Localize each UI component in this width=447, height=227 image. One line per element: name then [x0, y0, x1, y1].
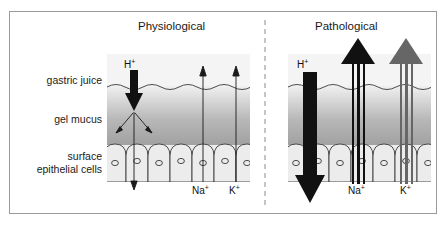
panel-physiological: [104, 54, 258, 190]
ion-label-k-plus-pathological: K+: [400, 184, 411, 196]
na-plus-arrow-shaft-right: [352, 52, 365, 184]
k-plus-arrow-shaft-right: [400, 52, 413, 184]
ion-label-h-plus-physiological: H+: [124, 58, 135, 70]
ion-label-h-plus-pathological: H+: [297, 58, 308, 70]
figure-root: Physiological Pathological gastric juice…: [0, 0, 447, 227]
ion-label-na-plus-physiological: Na+: [192, 184, 209, 196]
k-charge-right: +: [407, 184, 411, 191]
k-plus-arrowhead-right: [389, 38, 423, 64]
na-charge-left: +: [205, 184, 209, 191]
diagram-canvas: [0, 0, 447, 227]
na-plus-arrowhead-right: [341, 38, 375, 64]
k-symbol-left: K: [229, 185, 236, 196]
na-charge-right: +: [361, 184, 365, 191]
k-charge-left: +: [236, 184, 240, 191]
h-charge-left: +: [131, 58, 135, 65]
na-symbol-left: Na: [192, 185, 205, 196]
ion-label-na-plus-pathological: Na+: [348, 184, 365, 196]
h-charge-right: +: [304, 58, 308, 65]
k-symbol-right: K: [400, 185, 407, 196]
na-symbol-right: Na: [348, 185, 361, 196]
epithelial-cells-left: [104, 144, 258, 182]
ion-label-k-plus-physiological: K+: [229, 184, 240, 196]
